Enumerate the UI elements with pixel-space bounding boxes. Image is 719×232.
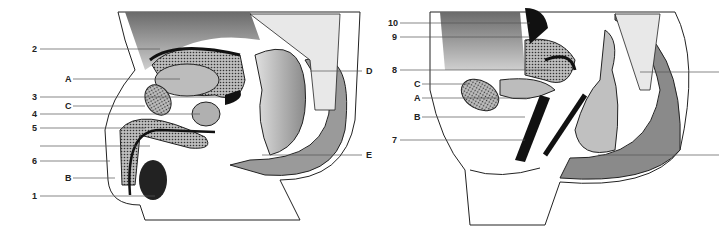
label-C: C: [414, 79, 421, 89]
female-pelvis-section: [430, 8, 689, 225]
label-E: E: [366, 150, 372, 160]
label-B: B: [414, 112, 421, 122]
label-A: A: [414, 93, 421, 103]
label-9: 9: [392, 32, 397, 42]
label-8: 8: [392, 65, 397, 75]
label-7: 7: [392, 135, 397, 145]
label-6: 6: [32, 156, 37, 166]
label-5: 5: [32, 123, 37, 133]
label-D: D: [366, 66, 373, 76]
label-4: 4: [32, 109, 37, 119]
label-1: 1: [32, 191, 37, 201]
label-2: 2: [32, 44, 37, 54]
anatomy-diagram: [0, 0, 719, 232]
label-A: A: [65, 74, 72, 84]
label-10: 10: [388, 18, 398, 28]
label-B: B: [65, 173, 72, 183]
male-pelvis-section: [105, 12, 360, 220]
label-3: 3: [32, 92, 37, 102]
label-C: C: [65, 101, 72, 111]
